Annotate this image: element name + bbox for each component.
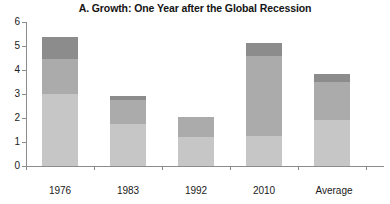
bar-segment-upper xyxy=(246,43,282,56)
y-tick-4: 4 xyxy=(26,70,27,71)
bar-segment-middle xyxy=(178,117,214,137)
chart-title: A. Growth: One Year after the Global Rec… xyxy=(0,2,390,14)
bar-1983[interactable] xyxy=(110,96,146,166)
y-tick-label: 4 xyxy=(14,65,20,75)
y-tick-label: 1 xyxy=(14,137,20,147)
x-label-average: Average 1960–2012 xyxy=(300,172,368,204)
x-label-line1: 1976 xyxy=(30,185,90,198)
x-axis-line xyxy=(26,166,384,167)
x-tick-mark xyxy=(298,166,299,170)
y-tick-mark xyxy=(22,22,26,23)
bar-segment-lower xyxy=(246,136,282,166)
bar-segment-upper xyxy=(314,74,350,82)
x-label-1992: 1992 xyxy=(166,172,226,204)
bar-segment-middle xyxy=(314,82,350,120)
bar-segment-lower xyxy=(42,94,78,166)
bar-segment-lower xyxy=(314,120,350,166)
x-tick-mark xyxy=(94,166,95,170)
chart-figure: A. Growth: One Year after the Global Rec… xyxy=(0,0,390,204)
x-label-line1: 1983 xyxy=(98,185,158,198)
y-tick-mark xyxy=(22,94,26,95)
bar-segment-lower xyxy=(178,137,214,166)
y-tick-label: 6 xyxy=(14,17,20,27)
y-tick-5: 5 xyxy=(26,46,27,47)
y-tick-label: 3 xyxy=(14,89,20,99)
x-tick-mark xyxy=(230,166,231,170)
bar-1992[interactable] xyxy=(178,117,214,166)
y-tick-mark xyxy=(22,142,26,143)
bar-segment-lower xyxy=(110,124,146,166)
x-label-line1: 1992 xyxy=(166,185,226,198)
bar-segment-middle xyxy=(110,100,146,124)
bar-segment-middle xyxy=(42,59,78,94)
y-tick-mark xyxy=(22,118,26,119)
x-label-1976: 1976 xyxy=(30,172,90,204)
y-tick-1: 1 xyxy=(26,142,27,143)
x-tick-mark xyxy=(366,166,367,170)
bar-average-1960-2012[interactable] xyxy=(314,74,350,166)
x-label-2010: 2010 xyxy=(234,172,294,204)
x-label-line1: 2010 xyxy=(234,185,294,198)
x-tick-mark xyxy=(26,166,27,170)
y-tick-mark xyxy=(22,70,26,71)
y-tick-label: 5 xyxy=(14,41,20,51)
y-tick-3: 3 xyxy=(26,94,27,95)
x-tick-mark xyxy=(162,166,163,170)
y-tick-label: 2 xyxy=(14,113,20,123)
plot-area: 0 1 2 3 4 5 6 xyxy=(26,22,384,166)
bar-1976[interactable] xyxy=(42,37,78,166)
bar-2010[interactable] xyxy=(246,43,282,166)
y-tick-6: 6 xyxy=(26,22,27,23)
y-tick-label: 0 xyxy=(14,161,20,171)
bar-segment-upper xyxy=(42,37,78,59)
y-tick-2: 2 xyxy=(26,118,27,119)
x-label-1983: 1983 xyxy=(98,172,158,204)
bar-segment-middle xyxy=(246,56,282,136)
x-label-line1: Average xyxy=(300,185,368,198)
y-tick-mark xyxy=(22,46,26,47)
